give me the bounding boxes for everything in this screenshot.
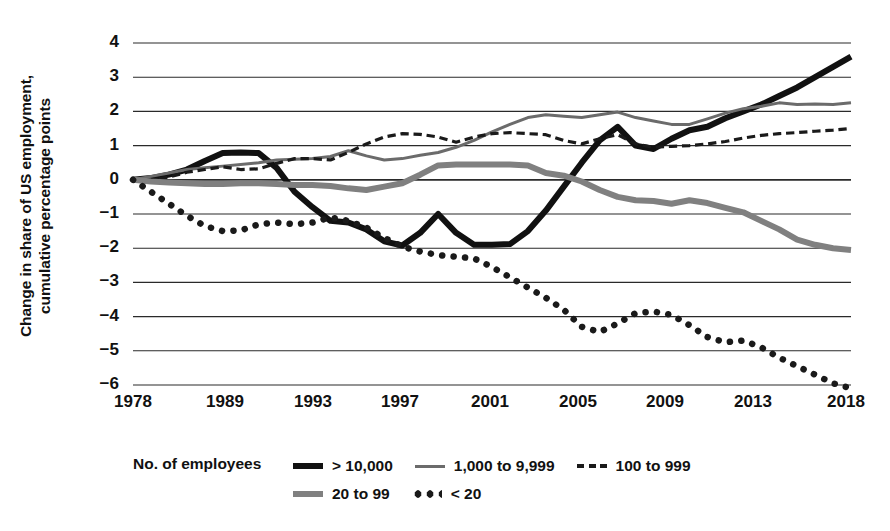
legend-label: 20 to 99	[332, 485, 390, 503]
employment-share-line-chart: Change in share of US employment, cumula…	[0, 0, 890, 531]
legend-entry-20-to-99[interactable]: 20 to 99	[293, 485, 412, 503]
series-line-10-000	[133, 57, 851, 246]
legend-entry-10-000[interactable]: > 10,000	[293, 457, 415, 475]
legend-label: 1,000 to 9,999	[454, 457, 555, 475]
legend-entries: > 10,0001,000 to 9,999100 to 99920 to 99…	[293, 452, 713, 508]
legend-label: 100 to 999	[616, 457, 691, 475]
legend-entry-20[interactable]: < 20	[412, 485, 504, 503]
legend-label: > 10,000	[332, 457, 393, 475]
legend-entry-1-000-to-9-999[interactable]: 1,000 to 9,999	[415, 457, 577, 475]
data-series-group	[133, 57, 851, 389]
legend-label: < 20	[451, 485, 482, 503]
legend-swatch	[293, 491, 323, 497]
legend-swatch	[415, 465, 445, 468]
legend-title: No. of employees	[133, 455, 261, 473]
legend-row: > 10,0001,000 to 9,999100 to 999	[293, 452, 713, 480]
legend-swatch	[412, 488, 442, 500]
legend-row: 20 to 99< 20	[293, 480, 713, 508]
series-line-20-to-99	[133, 164, 851, 250]
legend-swatch	[577, 464, 607, 467]
legend-entry-100-to-999[interactable]: 100 to 999	[577, 457, 713, 475]
legend-swatch	[293, 463, 323, 469]
